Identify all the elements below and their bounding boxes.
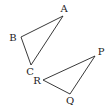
vertex-label-b: B <box>9 32 16 43</box>
triangle-pqr <box>43 56 95 94</box>
vertex-label-r: R <box>33 75 41 86</box>
triangle-abc <box>21 16 63 65</box>
vertex-label-p: P <box>98 46 105 57</box>
triangles-diagram: A B C P Q R <box>0 0 108 108</box>
vertex-label-a: A <box>59 3 68 14</box>
vertex-label-q: Q <box>66 95 74 106</box>
